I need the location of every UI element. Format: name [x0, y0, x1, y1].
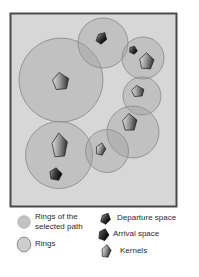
- legend-item-departure: Departure space: [99, 210, 199, 226]
- legend-item-arrival: Arrival space: [97, 226, 199, 242]
- legend-item-rings: Rings: [16, 236, 98, 253]
- arrival-pentagon-icon: [97, 227, 111, 242]
- kernel-pentagon-icon: [100, 243, 113, 259]
- legend-item-selected-rings: Rings of the selected path: [16, 210, 98, 234]
- selected-ring-icon: [16, 214, 32, 230]
- legend-label-kernels: Kernels: [120, 246, 147, 257]
- legend-label-selected-rings: Rings of the selected path: [35, 212, 93, 233]
- legend-left: Rings of the selected path Rings: [16, 210, 98, 253]
- ring-top-middle: [78, 18, 128, 68]
- ring-bottom-middle: [86, 130, 129, 173]
- legend-label-rings: Rings: [35, 239, 55, 250]
- diagram-svg: [0, 0, 199, 210]
- figure-page: Rings of the selected path Rings Departu…: [0, 0, 199, 277]
- legend-label-arrival: Arrival space: [113, 229, 159, 240]
- legend-item-kernels: Kernels: [100, 243, 199, 259]
- legend-label-departure: Departure space: [117, 213, 176, 224]
- departure-pentagon-icon: [99, 211, 113, 226]
- legend-right: Departure space Arrival space Kernels: [97, 210, 199, 259]
- ring-icon: [16, 236, 32, 253]
